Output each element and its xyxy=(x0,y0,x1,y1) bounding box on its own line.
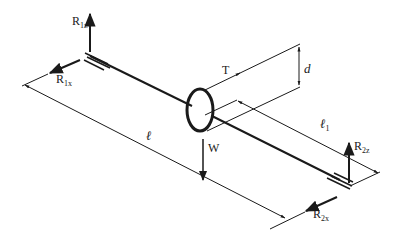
r1z-label: R1z xyxy=(72,14,88,30)
shaft-fbd-diagram: R1z R1x R2z R2x T W d ℓ ℓ1 xyxy=(0,0,403,244)
offset-dimension xyxy=(238,101,378,173)
r1x-arrow xyxy=(50,60,80,73)
belt-lines xyxy=(205,44,300,131)
offset-extension xyxy=(350,172,380,186)
torque-arrow xyxy=(236,73,240,75)
torque-label: T xyxy=(222,63,230,77)
diameter-label: d xyxy=(304,61,311,76)
r2x-label: R2x xyxy=(313,207,329,223)
length-label: ℓ xyxy=(146,128,152,143)
offset-label: ℓ1 xyxy=(320,116,329,133)
r2x-arrow xyxy=(306,197,337,211)
weight-label: W xyxy=(208,141,220,155)
r1x-label: R1x xyxy=(56,72,72,88)
length-extension-left xyxy=(22,74,48,86)
bearing-1 xyxy=(84,53,110,70)
r2z-label: R2z xyxy=(354,139,370,155)
length-extension-right xyxy=(270,212,305,229)
pulley-disk xyxy=(187,89,213,131)
shaft xyxy=(90,56,340,180)
